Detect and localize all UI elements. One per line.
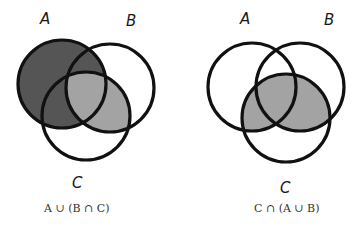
- left-label-b: B: [126, 12, 136, 30]
- venn-right: A B C: [200, 10, 360, 197]
- right-formula: C ∩ (A ∪ B): [254, 202, 319, 215]
- right-label-a: A: [239, 10, 250, 28]
- right-label-b: B: [324, 11, 334, 29]
- right-label-c: C: [280, 179, 291, 197]
- left-formula: A ∪ (B ∩ C): [44, 202, 109, 215]
- venn-left: A B C: [18, 10, 154, 192]
- left-label-a: A: [39, 10, 50, 28]
- left-label-c: C: [72, 174, 83, 192]
- venn-diagrams-canvas: A B C A B C: [0, 0, 364, 229]
